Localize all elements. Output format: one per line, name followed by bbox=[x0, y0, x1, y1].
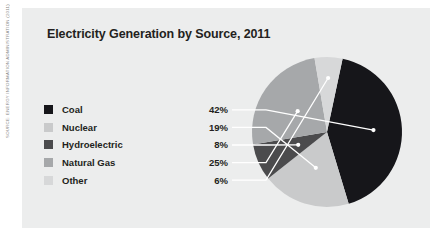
figure-container: SOURCE: ENERGY INFORMATION ADMINISTRATIO… bbox=[0, 0, 448, 244]
legend-swatch-other bbox=[44, 176, 53, 185]
legend-item-hydroelectric: Hydroelectric 8% bbox=[44, 136, 228, 154]
legend-swatch-hydroelectric bbox=[44, 140, 53, 149]
legend-item-natural-gas: Natural Gas 25% bbox=[44, 154, 228, 172]
legend-value-nuclear: 19% bbox=[209, 122, 228, 133]
chart-legend: Coal 42% Nuclear 19% Hydroelectric 8% Na… bbox=[44, 101, 228, 189]
legend-label-other: Other bbox=[62, 175, 87, 186]
source-credit: SOURCE: ENERGY INFORMATION ADMINISTRATIO… bbox=[0, 0, 14, 244]
legend-label-natural-gas: Natural Gas bbox=[62, 157, 115, 168]
legend-swatch-natural-gas bbox=[44, 158, 53, 167]
legend-item-other: Other 6% bbox=[44, 171, 228, 189]
legend-swatch-nuclear bbox=[44, 123, 53, 132]
legend-label-nuclear: Nuclear bbox=[62, 122, 97, 133]
pie-chart bbox=[240, 45, 420, 225]
legend-label-coal: Coal bbox=[62, 104, 83, 115]
legend-item-coal: Coal 42% bbox=[44, 101, 228, 119]
legend-label-hydroelectric: Hydroelectric bbox=[62, 139, 123, 150]
pie-slice-natural-gas bbox=[252, 58, 327, 144]
chart-title: Electricity Generation by Source, 2011 bbox=[47, 27, 270, 41]
source-credit-text: SOURCE: ENERGY INFORMATION ADMINISTRATIO… bbox=[5, 4, 10, 138]
legend-value-other: 6% bbox=[214, 175, 228, 186]
pie-svg bbox=[240, 45, 420, 225]
legend-item-nuclear: Nuclear 19% bbox=[44, 119, 228, 137]
legend-value-hydroelectric: 8% bbox=[214, 139, 228, 150]
legend-value-coal: 42% bbox=[209, 104, 228, 115]
legend-value-natural-gas: 25% bbox=[209, 157, 228, 168]
legend-swatch-coal bbox=[44, 105, 53, 114]
